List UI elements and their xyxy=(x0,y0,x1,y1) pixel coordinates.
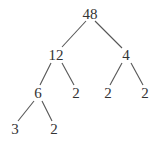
edge-n6-n3 xyxy=(18,101,34,121)
tree-node-n6: 6 xyxy=(34,85,42,101)
tree-node-n12: 12 xyxy=(49,47,64,63)
tree-node-n48: 48 xyxy=(83,6,98,22)
tree-edges xyxy=(18,21,143,121)
edge-n48-n4 xyxy=(95,21,122,48)
tree-node-n2b: 2 xyxy=(104,85,112,101)
edge-n4-n2b xyxy=(110,63,122,85)
edge-n6-n2d xyxy=(42,101,52,121)
edge-n4-n2c xyxy=(131,63,143,85)
tree-node-n4: 4 xyxy=(122,47,130,63)
tree-nodes: 48124622232 xyxy=(11,6,149,137)
edge-n48-n12 xyxy=(62,21,86,47)
tree-node-n2c: 2 xyxy=(141,85,149,101)
tree-node-n2d: 2 xyxy=(50,121,58,137)
tree-node-n2a: 2 xyxy=(72,85,80,101)
tree-node-n3: 3 xyxy=(11,121,19,137)
edge-n12-n6 xyxy=(40,63,51,85)
factor-tree-diagram: 48124622232 xyxy=(0,0,156,141)
edge-n12-n2a xyxy=(62,63,74,85)
